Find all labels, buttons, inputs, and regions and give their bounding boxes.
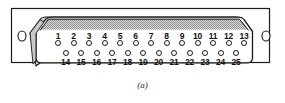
pin-hole-25 <box>233 50 239 56</box>
pin-hole-14 <box>63 50 69 56</box>
pin-hole-21 <box>171 50 177 56</box>
pin-label-20: 20 <box>151 58 167 67</box>
pin-hole-5 <box>117 40 123 46</box>
pin-hole-24 <box>218 50 224 56</box>
pin-hole-23 <box>202 50 208 56</box>
figure-caption: (a) <box>0 80 285 90</box>
left-mounting-hole <box>18 31 26 41</box>
pin-hole-2 <box>71 40 77 46</box>
pin-label-24: 24 <box>213 58 229 67</box>
pin-label-17: 17 <box>104 58 120 67</box>
shell-shading-band <box>40 19 249 30</box>
pin-hole-8 <box>164 40 170 46</box>
pin-hole-17 <box>109 50 115 56</box>
pin-hole-6 <box>133 40 139 46</box>
pin-hole-20 <box>156 50 162 56</box>
pin-hole-18 <box>125 50 131 56</box>
pin-label-15: 15 <box>73 58 89 67</box>
pin-label-25: 25 <box>228 58 244 67</box>
pin-label-22: 22 <box>182 58 198 67</box>
pin-hole-15 <box>78 50 84 56</box>
right-mounting-hole <box>262 31 270 41</box>
pin-hole-19 <box>140 50 146 56</box>
pin-hole-13 <box>241 40 247 46</box>
pin-hole-22 <box>187 50 193 56</box>
pin-label-21: 21 <box>166 58 182 67</box>
pin-hole-9 <box>179 40 185 46</box>
pin-label-14: 14 <box>58 58 74 67</box>
pin-hole-1 <box>55 40 61 46</box>
pin-label-16: 16 <box>89 58 105 67</box>
pin-hole-12 <box>226 40 232 46</box>
db25-connector-figure: 1 2 3 4 5 6 7 8 9 10 11 12 13 <box>0 0 285 103</box>
pin-label-18: 18 <box>120 58 136 67</box>
pin-hole-16 <box>94 50 100 56</box>
pin-hole-10 <box>195 40 201 46</box>
pin-label-23: 23 <box>197 58 213 67</box>
pin-hole-4 <box>102 40 108 46</box>
pin-hole-11 <box>210 40 216 46</box>
pin-hole-7 <box>148 40 154 46</box>
pin-hole-3 <box>86 40 92 46</box>
pin-label-19: 19 <box>135 58 151 67</box>
